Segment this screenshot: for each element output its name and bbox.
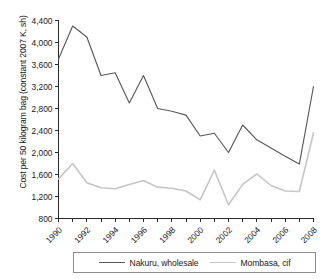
y-tick-label: 3,200 [32, 82, 53, 92]
legend-label: Nakuru, wholesale [130, 258, 199, 268]
x-tick-label: 1996 [129, 225, 149, 245]
data-series-layer [59, 26, 314, 205]
legend-item[interactable]: Nakuru, wholesale [99, 258, 199, 268]
y-tick-label: 800 [39, 214, 53, 224]
x-axis-tick-labels: 1990199219941996199820002002200420062008 [44, 225, 319, 245]
x-tick-label: 2000 [185, 225, 205, 245]
y-tick-label: 1,200 [32, 192, 53, 202]
legend-line-swatch [210, 262, 236, 263]
y-tick-label: 4,000 [32, 38, 53, 48]
axis-lines [59, 21, 314, 219]
x-tick-label: 2002 [214, 225, 234, 245]
x-axis-tick-marks [59, 219, 314, 223]
y-axis-tick-marks [55, 21, 59, 219]
y-tick-label: 4,400 [32, 16, 53, 26]
legend-label: Mombasa, cif [241, 258, 291, 268]
y-axis-tick-labels: 8001,2001,6002,0002,4002,8003,2003,6004,… [32, 16, 53, 224]
legend-line-swatch [99, 262, 125, 263]
x-tick-label: 2004 [242, 225, 262, 245]
series-line-nakuru-wholesale [59, 26, 314, 164]
x-tick-label: 1994 [100, 225, 120, 245]
x-tick-label: 2008 [299, 225, 319, 245]
x-tick-label: 1992 [72, 225, 92, 245]
y-tick-label: 2,800 [32, 104, 53, 114]
y-tick-label: 2,400 [32, 126, 53, 136]
x-tick-label: 1998 [157, 225, 177, 245]
legend-item[interactable]: Mombasa, cif [210, 258, 291, 268]
x-tick-label: 2006 [270, 225, 290, 245]
chart-container: Cost per 50 kilogram bag (constant 2007 … [0, 0, 324, 279]
y-tick-label: 3,600 [32, 60, 53, 70]
x-tick-label: 1990 [44, 225, 64, 245]
series-line-mombasa-cif [59, 133, 314, 205]
y-tick-label: 2,000 [32, 148, 53, 158]
chart-legend: Nakuru, wholesaleMombasa, cif [73, 252, 316, 273]
plot-area: 8001,2001,6002,0002,4002,8003,2003,6004,… [0, 0, 324, 252]
y-tick-label: 1,600 [32, 170, 53, 180]
